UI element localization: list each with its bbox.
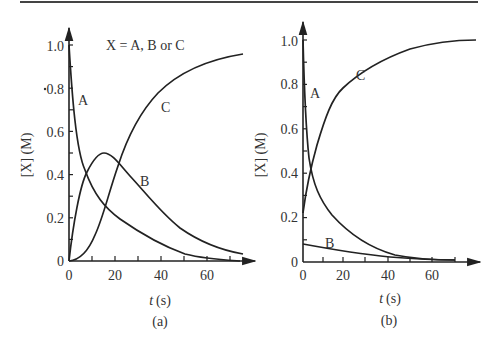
chart-b-label-C: C xyxy=(356,68,365,83)
stray-dot xyxy=(44,88,46,90)
chart-a-ytick-02: 0.2 xyxy=(47,211,65,226)
chart-a-ytick-04: 0.4 xyxy=(47,168,65,183)
chart-a-xtick-20: 20 xyxy=(108,268,122,283)
chart-a-label-B: B xyxy=(140,174,149,189)
chart-b-xtick-40: 40 xyxy=(381,268,395,283)
chart-a-xtick-60: 60 xyxy=(200,268,214,283)
chart-b-curve-C xyxy=(303,40,476,213)
chart-a-ytick-0: 0 xyxy=(57,254,64,269)
chart-a-x-label-unit: (s) xyxy=(156,293,171,309)
chart-a-label-A: A xyxy=(78,93,89,108)
chart-b-ytick-04: 0.4 xyxy=(281,166,299,181)
chart-a-curve-A xyxy=(69,45,240,261)
chart-b-ytick-06: 0.6 xyxy=(281,122,299,137)
chart-a-ytick-06: 0.6 xyxy=(47,125,65,140)
chart-a-annotation: X = A, B or C xyxy=(106,38,185,53)
chart-a-label-C: C xyxy=(161,100,170,115)
chart-a-caption: (a) xyxy=(152,314,168,330)
chart-b-y-label: [X] (M) xyxy=(253,132,269,177)
chart-a-curve-B xyxy=(69,153,243,261)
chart-a: 0 0.2 0.4 0.6 0.8 1.0 0 20 40 60 [X] (M)… xyxy=(19,28,255,330)
chart-b-curve-A xyxy=(303,40,455,260)
chart-b-ytick-0: 0 xyxy=(291,255,298,270)
chart-b-ytick-02: 0.2 xyxy=(281,210,299,225)
chart-b-label-A: A xyxy=(310,86,321,101)
chart-b-x-label-unit: (s) xyxy=(386,291,401,307)
chart-a-x-label-var: t xyxy=(149,293,154,308)
chart-a-x-label: t(s) xyxy=(149,293,171,309)
chart-b-xtick-60: 60 xyxy=(425,268,439,283)
chart-a-ytick-10: 1.0 xyxy=(47,39,65,54)
chart-a-xtick-40: 40 xyxy=(154,268,168,283)
chart-b-xtick-20: 20 xyxy=(336,268,350,283)
chart-b-ytick-10: 1.0 xyxy=(281,34,299,49)
chart-b-x-label: t(s) xyxy=(379,291,401,307)
chart-b-x-label-var: t xyxy=(379,291,384,306)
chart-a-xtick-0: 0 xyxy=(66,268,73,283)
chart-b-label-B: B xyxy=(325,236,334,251)
chart-a-y-label: [X] (M) xyxy=(19,132,35,177)
chart-a-curve-C xyxy=(69,54,243,261)
figure: 0 0.2 0.4 0.6 0.8 1.0 0 20 40 60 [X] (M)… xyxy=(0,0,498,345)
chart-b: 0 0.2 0.4 0.6 0.8 1.0 0 20 40 60 [X] (M)… xyxy=(253,22,480,329)
chart-b-xtick-0: 0 xyxy=(300,268,307,283)
chart-b-caption: (b) xyxy=(381,313,398,329)
chart-b-ytick-08: 0.8 xyxy=(281,77,299,92)
chart-a-ytick-08: 0.8 xyxy=(47,82,65,97)
